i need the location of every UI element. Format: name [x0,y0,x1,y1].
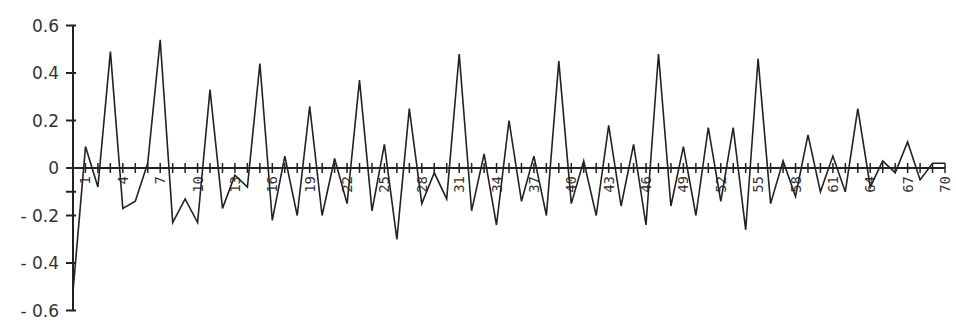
x-tick-label: 52 [713,176,729,193]
x-tick-label: 7 [152,176,168,184]
x-tick-label: 19 [302,176,318,193]
x-tick-label: 70 [937,176,953,193]
y-tick-label: - 0.4 [20,253,59,273]
x-tick-label: 31 [451,176,467,193]
x-tick-label: 1 [77,176,93,184]
x-tick-label: 61 [825,176,841,193]
y-tick-label: 0.6 [32,16,59,36]
x-tick-label: 10 [190,176,206,193]
y-tick-label: - 0.6 [20,301,59,321]
x-tick-label: 55 [750,176,766,193]
x-tick-label: 43 [601,176,617,193]
y-tick-label: - 0.2 [20,206,59,226]
y-tick-label: 0.4 [32,63,59,83]
y-tick-label: 0.2 [32,111,59,131]
x-tick-label: 67 [900,176,916,193]
x-tick-label: 4 [115,176,131,184]
autocorrelation-chart: 0.60.40.20- 0.2- 0.4- 0.6 14710131619222… [0,0,956,335]
y-tick-label: 0 [48,158,59,178]
y-axis: 0.60.40.20- 0.2- 0.4- 0.6 [20,16,76,321]
